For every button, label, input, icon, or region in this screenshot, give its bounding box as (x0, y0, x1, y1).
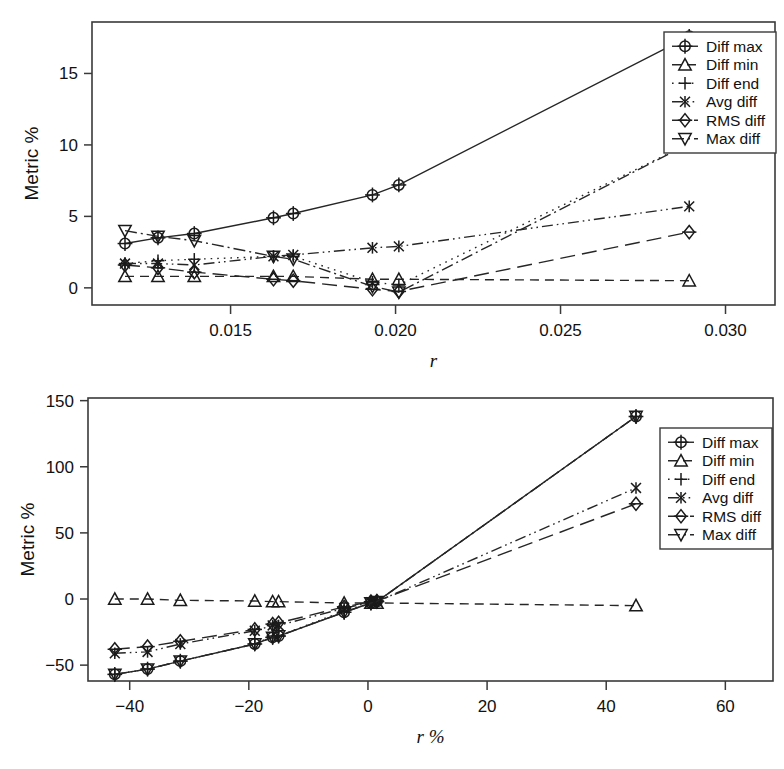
x-tick-label-bottom-2: 0 (363, 697, 372, 716)
data-point-top-0-6 (391, 178, 406, 193)
x-tick-label-top-1: 0.020 (374, 321, 417, 340)
x-tick-label-bottom-0: −40 (115, 697, 144, 716)
legend-label-top-0[interactable]: Diff max (706, 38, 763, 55)
series-line-bottom-2 (115, 417, 636, 675)
legend-label-top-4[interactable]: RMS diff (706, 112, 766, 129)
series-line-top-0 (125, 36, 689, 243)
y-tick-label-bottom-1: 0 (65, 590, 74, 609)
x-tick-label-top-3: 0.030 (704, 321, 747, 340)
data-point-bottom-3-9 (631, 482, 641, 494)
series-line-top-3 (125, 206, 689, 265)
data-point-top-4-3 (266, 273, 280, 286)
legend-label-top-2[interactable]: Diff end (706, 75, 759, 92)
legend-label-top-5[interactable]: Max diff (706, 130, 761, 147)
series-line-top-1 (125, 276, 689, 280)
x-tick-label-bottom-3: 20 (478, 697, 497, 716)
y-tick-label-top-0: 0 (69, 279, 78, 298)
x-axis-title-top: r (430, 350, 438, 371)
y-tick-label-top-3: 15 (59, 64, 78, 83)
data-point-top-0-5 (365, 188, 380, 203)
legend-bottom[interactable]: Diff maxDiff minDiff endAvg diffRMS diff… (660, 428, 772, 549)
x-tick-label-top-0: 0.015 (209, 321, 252, 340)
x-tick-label-bottom-4: 40 (597, 697, 616, 716)
x-tick-label-bottom-1: −20 (234, 697, 263, 716)
data-point-bottom-4-9 (629, 497, 643, 510)
y-tick-label-bottom-0: −50 (45, 656, 74, 675)
chart-panel-top: 0510150.0150.0200.0250.030rMetric %Diff … (21, 22, 776, 371)
y-tick-label-top-1: 5 (69, 207, 78, 226)
data-point-top-3-7 (684, 201, 694, 213)
legend-top[interactable]: Diff maxDiff minDiff endAvg diffRMS diff… (664, 32, 776, 153)
x-tick-label-bottom-5: 60 (716, 697, 735, 716)
chart-panel-bottom: −50050100150−40−200204060r %Metric %Diff… (17, 392, 773, 747)
x-tick-label-top-2: 0.025 (539, 321, 582, 340)
y-tick-label-bottom-4: 150 (46, 392, 74, 411)
y-tick-label-top-2: 10 (59, 136, 78, 155)
legend-label-bottom-5[interactable]: Max diff (702, 526, 757, 543)
two-panel-line-chart: 0510150.0150.0200.0250.030rMetric %Diff … (0, 0, 784, 769)
series-line-bottom-5 (115, 417, 636, 675)
y-axis-title-bottom: Metric % (17, 502, 38, 576)
series-line-bottom-3 (115, 488, 636, 653)
x-axis-title-bottom: r % (417, 726, 445, 747)
legend-label-bottom-2[interactable]: Diff end (702, 471, 755, 488)
data-point-top-4-7 (682, 226, 696, 239)
series-line-bottom-4 (115, 504, 636, 649)
series-line-top-4 (125, 232, 689, 291)
figure-container: 0510150.0150.0200.0250.030rMetric %Diff … (0, 0, 784, 769)
legend-label-top-3[interactable]: Avg diff (706, 93, 758, 110)
legend-label-bottom-0[interactable]: Diff max (702, 434, 759, 451)
y-tick-label-bottom-3: 100 (46, 458, 74, 477)
legend-label-bottom-4[interactable]: RMS diff (702, 508, 762, 525)
y-axis-title-top: Metric % (21, 126, 42, 200)
data-point-top-0-3 (266, 210, 281, 225)
legend-label-bottom-3[interactable]: Avg diff (702, 489, 754, 506)
legend-label-bottom-1[interactable]: Diff min (702, 452, 754, 469)
y-tick-label-bottom-2: 50 (55, 524, 74, 543)
series-line-bottom-0 (115, 417, 636, 675)
legend-label-top-1[interactable]: Diff min (706, 56, 758, 73)
data-point-top-0-4 (286, 206, 301, 221)
data-point-bottom-2-9 (630, 410, 642, 422)
